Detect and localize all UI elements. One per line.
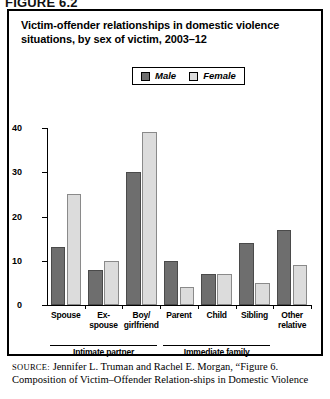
bar-female-boy-girlfriend xyxy=(142,132,157,305)
group-label-immediate-family: Immediate family xyxy=(163,347,270,357)
bar-female-child xyxy=(217,274,232,305)
chart-legend: Male Female xyxy=(132,67,245,85)
bar-male-parent xyxy=(164,261,179,305)
source-label: SOURCE: xyxy=(12,362,50,372)
x-tick-5 xyxy=(273,305,274,309)
y-tick-label-30: 30 xyxy=(0,168,22,177)
y-tick-label-10: 10 xyxy=(0,257,22,266)
legend-swatch-female-icon xyxy=(189,72,198,81)
plot-area xyxy=(47,128,311,305)
x-label-line: relative xyxy=(270,320,314,330)
bar-female-other-relative xyxy=(293,265,308,305)
x-tick-4 xyxy=(236,305,237,309)
group-rule-1 xyxy=(163,345,270,346)
group-label-intimate-partner: Intimate partner xyxy=(50,347,157,357)
x-tick-1 xyxy=(122,305,123,309)
bar-male-other-relative xyxy=(277,230,292,305)
group-rule-0 xyxy=(50,345,157,346)
x-axis-line xyxy=(47,305,312,306)
source-text: Jennifer L. Truman and Rachel E. Morgan,… xyxy=(12,361,308,385)
bar-male-ex-spouse xyxy=(88,270,103,305)
y-tick-0 xyxy=(42,305,47,306)
bar-female-parent xyxy=(180,287,195,305)
y-tick-label-0: 0 xyxy=(0,301,22,310)
bar-male-sibling xyxy=(239,243,254,305)
legend-item-female: Female xyxy=(189,71,236,81)
legend-label-female: Female xyxy=(203,71,236,81)
legend-swatch-male-icon xyxy=(141,72,150,81)
bar-male-spouse xyxy=(51,247,66,305)
x-tick-3 xyxy=(198,305,199,309)
figure-title: Victim-offender relationships in domesti… xyxy=(21,18,305,46)
legend-label-male: Male xyxy=(155,71,176,81)
x-label-line: girlfriend xyxy=(119,320,163,330)
bar-male-boy-girlfriend xyxy=(126,172,141,305)
bar-female-ex-spouse xyxy=(104,261,119,305)
y-tick-label-40: 40 xyxy=(0,124,22,133)
x-tick-2 xyxy=(160,305,161,309)
x-tick-6 xyxy=(311,305,312,309)
source-note: SOURCE: Jennifer L. Truman and Rachel E.… xyxy=(12,361,320,386)
x-tick-0 xyxy=(85,305,86,309)
x-label-line: Other xyxy=(270,310,314,320)
legend-item-male: Male xyxy=(141,71,176,81)
y-tick-label-20: 20 xyxy=(0,213,22,222)
figure-number: FIGURE 6.2 xyxy=(5,0,78,9)
x-axis-label-other-relative: Otherrelative xyxy=(270,310,314,330)
bar-female-spouse xyxy=(67,194,82,305)
bar-female-sibling xyxy=(255,283,270,305)
bar-male-child xyxy=(201,274,216,305)
